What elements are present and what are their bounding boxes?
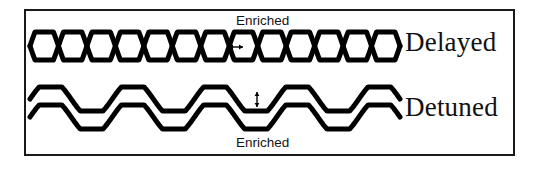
panel-label-delayed: Delayed [405, 29, 496, 56]
panel-label-detuned: Detuned [405, 94, 498, 121]
enriched-label-delayed: Enriched [236, 14, 289, 28]
figure-root: Enriched Enriched Delayed Detuned [0, 0, 540, 169]
enriched-label-detuned: Enriched [236, 136, 289, 150]
